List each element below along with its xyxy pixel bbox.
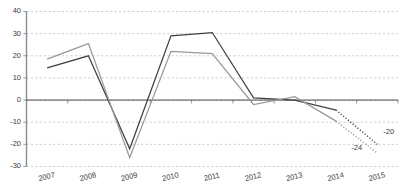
gridlines-group bbox=[27, 12, 399, 167]
y-tick-label: -20 bbox=[10, 139, 21, 148]
x-tick-label-2010: 2010 bbox=[161, 170, 179, 183]
chart-canvas: 403020100-10-20-30 200720082009201020112… bbox=[0, 0, 403, 191]
endpoint-label-dark-series: -20 bbox=[383, 127, 394, 136]
series-group bbox=[47, 33, 377, 158]
x-tick-label-2008: 2008 bbox=[79, 170, 97, 183]
x-tick-labels-group: 200720082009201020112012201320142015 bbox=[37, 170, 386, 183]
x-tick-label-2014: 2014 bbox=[326, 170, 344, 183]
x-axis-group bbox=[27, 100, 399, 103]
x-tick-label-2011: 2011 bbox=[203, 170, 221, 182]
series-forecast-line-dark-series bbox=[336, 110, 377, 144]
y-tick-label: 20 bbox=[13, 51, 21, 60]
y-tick-label: 30 bbox=[13, 29, 21, 38]
line-chart: 403020100-10-20-30 200720082009201020112… bbox=[0, 0, 403, 191]
x-tick-label-2009: 2009 bbox=[120, 170, 138, 183]
y-tick-label: 10 bbox=[13, 73, 21, 82]
x-tick-label-2007: 2007 bbox=[37, 170, 55, 183]
x-tick-label-2015: 2015 bbox=[368, 170, 386, 183]
x-tick-label-2012: 2012 bbox=[244, 170, 262, 183]
y-tick-label: -30 bbox=[10, 161, 21, 170]
endpoint-label-gray-series: -24 bbox=[351, 143, 362, 152]
y-axis-group bbox=[23, 12, 26, 167]
y-tick-label: 0 bbox=[17, 95, 21, 104]
y-tick-label: -10 bbox=[10, 117, 21, 126]
y-tick-label: 40 bbox=[13, 6, 21, 15]
y-tick-labels-group: 403020100-10-20-30 bbox=[10, 6, 21, 170]
x-tick-label-2013: 2013 bbox=[285, 170, 303, 183]
